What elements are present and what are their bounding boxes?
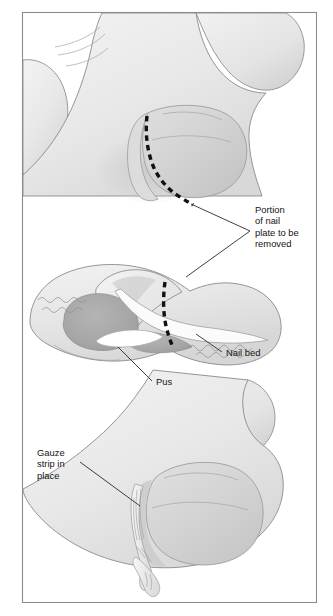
label-portion-line-4: removed — [255, 238, 291, 249]
leader-line-portion-upper — [191, 204, 250, 231]
label-gauze-line-3: place — [37, 470, 59, 481]
panel-bottom-gauze-view — [23, 370, 283, 597]
medical-illustration-canvas: Portion of nail plate to be removed Nail… — [0, 0, 333, 616]
label-pus: Pus — [156, 376, 172, 387]
nail-plate-top — [142, 105, 246, 197]
label-portion-line-2: of nail — [255, 215, 280, 226]
nail-plate-bottom — [146, 462, 263, 565]
label-nail-bed-line-1: Nail bed — [226, 347, 260, 358]
panel-top-dorsal-view — [23, 13, 304, 205]
illustration-figure: Portion of nail plate to be removed Nail… — [0, 0, 333, 616]
label-gauze-line-1: Gauze — [37, 447, 65, 458]
label-portion-of-nail-plate: Portion of nail plate to be removed — [255, 204, 301, 249]
label-portion-line-1: Portion — [255, 204, 285, 215]
label-nail-bed: Nail bed — [226, 347, 260, 358]
label-gauze-line-2: strip in — [37, 458, 65, 469]
leader-line-portion-lower — [186, 231, 250, 277]
label-pus-line-1: Pus — [156, 376, 172, 387]
label-portion-line-3: plate to be — [255, 227, 299, 238]
